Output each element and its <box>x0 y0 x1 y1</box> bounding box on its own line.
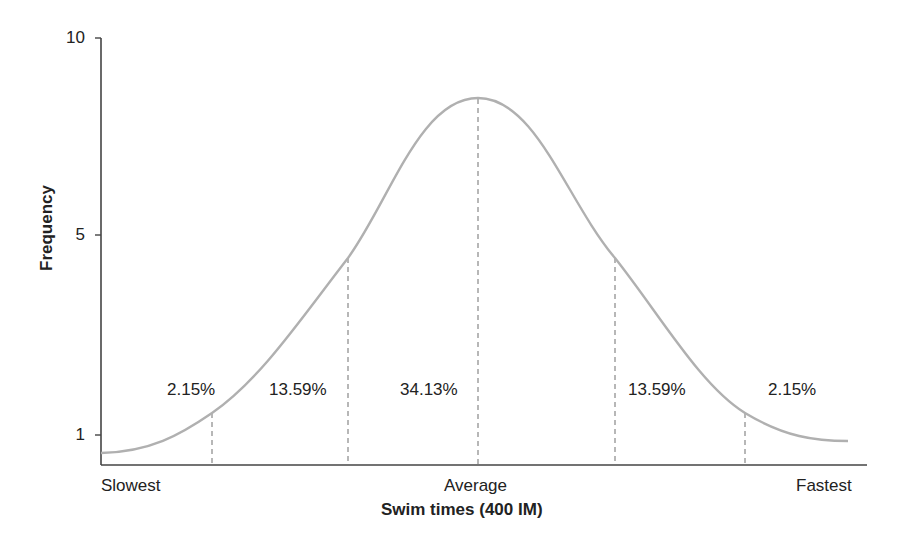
region-label: 13.59% <box>269 380 327 400</box>
x-axis-label: Swim times (400 IM) <box>381 500 543 520</box>
region-label: 2.15% <box>167 380 215 400</box>
chart-canvas <box>0 0 899 538</box>
x-label-slowest: Slowest <box>101 476 161 496</box>
sd-dividers <box>212 99 745 465</box>
x-label-fastest: Fastest <box>796 476 852 496</box>
region-label: 2.15% <box>768 380 816 400</box>
x-label-average: Average <box>444 476 507 496</box>
y-tick-label-10: 10 <box>45 28 85 48</box>
region-label: 34.13% <box>400 380 458 400</box>
y-tick-label-1: 1 <box>45 425 85 445</box>
region-label: 13.59% <box>628 380 686 400</box>
y-axis-label: Frequency <box>37 173 57 283</box>
